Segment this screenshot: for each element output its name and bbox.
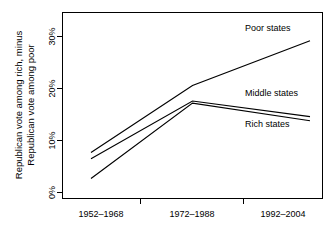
series-label-middle: Middle states xyxy=(245,88,299,98)
line-chart-canvas: 0% 10% 20% 30% Republican vote among ric… xyxy=(0,0,335,235)
series-label-poor: Poor states xyxy=(245,23,291,33)
y-axis-label-line1: Republican vote among rich, minus xyxy=(13,31,24,180)
ytick-label-20: 20% xyxy=(47,79,57,97)
xtick-label-0: 1952–1968 xyxy=(78,209,123,219)
xtick-label-2: 1992–2004 xyxy=(260,209,305,219)
chart-figure: 0% 10% 20% 30% Republican vote among ric… xyxy=(0,0,335,235)
series-line-middle xyxy=(91,101,310,159)
xtick-label-1: 1972–1988 xyxy=(169,209,214,219)
y-axis-label-line2: Republican vote among poor xyxy=(25,44,36,165)
ytick-label-10: 10% xyxy=(47,131,57,149)
series-line-rich xyxy=(91,103,310,178)
series-label-rich: Rich states xyxy=(245,119,290,129)
ytick-label-0: 0% xyxy=(47,186,57,199)
ytick-label-30: 30% xyxy=(47,27,57,45)
